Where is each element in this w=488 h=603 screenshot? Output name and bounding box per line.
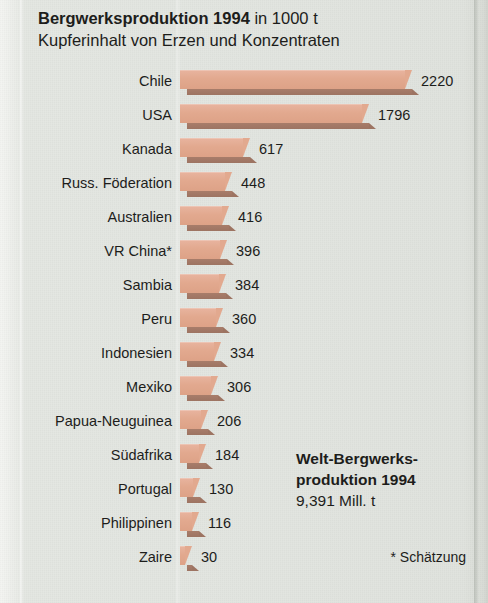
chart-poster: Bergwerksproduktion 1994 in 1000 t Kupfe… (0, 0, 488, 603)
bar (180, 546, 185, 576)
world-production-summary: Welt-Bergwerks- produktion 1994 9,391 Mi… (296, 448, 476, 512)
bar-shadow-face (187, 191, 232, 197)
bar-chart-row: Australien416 (0, 206, 488, 240)
value-label: 416 (238, 208, 262, 226)
bar-chart-row: Peru360 (0, 308, 488, 342)
bar-chart-row: Chile2220 (0, 70, 488, 104)
bar-face (180, 70, 405, 89)
value-label: 396 (236, 242, 260, 260)
bar-shadow-face (187, 497, 200, 503)
bar-chart-row: Philippinen116 (0, 512, 488, 546)
bar-chart-row: Papua-Neuguinea206 (0, 410, 488, 444)
bar (180, 240, 220, 270)
bar-chart-row: Sambia384 (0, 274, 488, 308)
bar-shadow-face (187, 225, 229, 231)
value-label: 306 (227, 378, 251, 396)
value-label: 184 (215, 446, 239, 464)
bar-face (180, 546, 185, 565)
value-label: 130 (209, 480, 233, 498)
chart-title-bold: Bergwerksproduktion 1994 (38, 9, 250, 27)
bar (180, 206, 222, 236)
bar-face (180, 104, 362, 123)
category-label: Sambia (0, 276, 172, 294)
chart-title-unit: in 1000 t (250, 9, 318, 27)
bar (180, 70, 405, 100)
bar (180, 410, 201, 440)
bar-face (180, 376, 211, 395)
category-label: Chile (0, 72, 172, 90)
bar (180, 138, 243, 168)
category-label: VR China* (0, 242, 172, 260)
category-label: Philippinen (0, 514, 172, 532)
value-label: 360 (232, 310, 256, 328)
summary-line-2: produktion 1994 (296, 469, 476, 490)
bar (180, 478, 193, 508)
bar-shadow-face (187, 327, 223, 333)
bar (180, 308, 216, 338)
category-label: Russ. Föderation (0, 174, 172, 192)
category-label: Südafrika (0, 446, 172, 464)
value-label: 1796 (378, 106, 410, 124)
category-label: Portugal (0, 480, 172, 498)
bar-shadow-face (187, 531, 199, 537)
value-label: 448 (241, 174, 265, 192)
category-label: Zaire (0, 548, 172, 566)
bar (180, 444, 199, 474)
bar-face (180, 172, 225, 191)
bar-chart-row: VR China*396 (0, 240, 488, 274)
chart-title-block: Bergwerksproduktion 1994 in 1000 t Kupfe… (38, 8, 458, 51)
category-label: Indonesien (0, 344, 172, 362)
bar-chart-row: Indonesien334 (0, 342, 488, 376)
bar (180, 342, 214, 372)
bar (180, 104, 362, 134)
bar (180, 274, 219, 304)
value-label: 384 (235, 276, 259, 294)
bar-face (180, 512, 192, 531)
bar-shadow-face (187, 123, 369, 129)
category-label: Kanada (0, 140, 172, 158)
chart-title-line: Bergwerksproduktion 1994 in 1000 t (38, 8, 458, 29)
bar (180, 376, 211, 406)
summary-line-1: Welt-Bergwerks- (296, 448, 476, 469)
bar-face (180, 138, 243, 157)
category-label: Australien (0, 208, 172, 226)
bar (180, 512, 192, 542)
bar-face (180, 444, 199, 463)
bar-face (180, 308, 216, 327)
value-label: 617 (259, 140, 283, 158)
bar-shadow-face (187, 293, 226, 299)
bar-face (180, 274, 219, 293)
bar-chart-row: Kanada617 (0, 138, 488, 172)
value-label: 30 (201, 548, 217, 566)
value-label: 2220 (421, 72, 453, 90)
bar-shadow-face (187, 89, 412, 95)
bar-face (180, 240, 220, 259)
bar-shadow-face (187, 395, 218, 401)
estimate-footnote: * Schätzung (250, 548, 466, 566)
bar-shadow-face (187, 259, 227, 265)
value-label: 334 (230, 344, 254, 362)
category-label: USA (0, 106, 172, 124)
bar-face (180, 410, 201, 429)
value-label: 116 (208, 514, 231, 532)
bar-face (180, 206, 222, 225)
bar-face (180, 342, 214, 361)
category-label: Papua-Neuguinea (0, 412, 172, 430)
bar-chart-row: USA1796 (0, 104, 488, 138)
category-label: Peru (0, 310, 172, 328)
bar-shadow-face (187, 157, 250, 163)
bar-chart-row: Mexiko306 (0, 376, 488, 410)
summary-line-3: 9,391 Mill. t (296, 490, 476, 512)
bar-shadow-face (187, 429, 208, 435)
chart-subtitle: Kupferinhalt von Erzen und Konzentraten (38, 29, 458, 51)
bar (180, 172, 225, 202)
category-label: Mexiko (0, 378, 172, 396)
bar-shadow-face (187, 361, 221, 367)
bar-face (180, 478, 193, 497)
bar-shadow-face (187, 565, 192, 571)
value-label: 206 (217, 412, 241, 430)
bar-chart-row: Russ. Föderation448 (0, 172, 488, 206)
bar-shadow-face (187, 463, 206, 469)
